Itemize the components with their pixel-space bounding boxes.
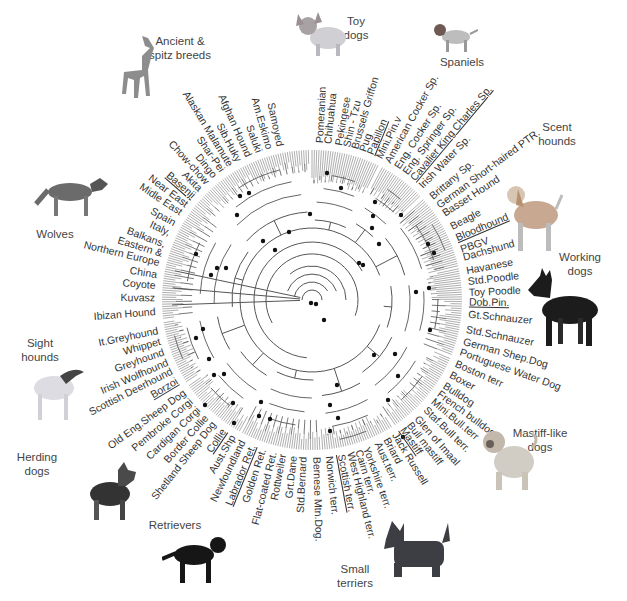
bootstrap-node-dot — [393, 352, 397, 356]
bootstrap-node-dot — [212, 373, 216, 377]
leaf-branch — [343, 435, 346, 446]
leaf-branch — [182, 367, 198, 376]
leaf-branch — [335, 438, 337, 448]
leaf-branch — [171, 249, 184, 254]
leaf-branch — [164, 321, 175, 323]
internal-branch — [376, 420, 378, 423]
leaf-branch — [344, 428, 348, 445]
group-label-line: Wolves — [10, 227, 100, 241]
leaf-branch — [316, 150, 317, 177]
leaf-branch — [163, 285, 182, 287]
internal-branch — [370, 422, 371, 423]
leaf-branch — [169, 341, 182, 345]
leaf-branch — [321, 429, 322, 450]
leaf-branch — [445, 314, 461, 316]
leaf-branch — [269, 426, 274, 444]
leaf-branch — [299, 433, 300, 449]
leaf-branch — [202, 395, 210, 403]
leaf-branch — [375, 170, 387, 190]
leaf-branch — [321, 150, 324, 182]
bootstrap-node-dot — [372, 353, 376, 357]
leaf-branch — [301, 150, 302, 171]
leaf-branch — [162, 295, 182, 296]
leaf-branch — [163, 281, 181, 283]
leaf-branch — [445, 306, 462, 307]
leaf-branch — [445, 323, 460, 325]
internal-branch — [261, 411, 266, 424]
sub-clade-arc — [435, 299, 438, 329]
bootstrap-node-dot — [222, 372, 226, 376]
internal-branch — [291, 419, 293, 434]
group-label-line: hounds — [512, 134, 602, 148]
leaf-branch — [379, 172, 391, 191]
leaf-branch — [241, 168, 246, 178]
internal-branch — [181, 283, 193, 285]
wolf-illustration — [34, 172, 112, 218]
leaf-branch — [332, 432, 334, 448]
bootstrap-node-dot — [235, 213, 239, 217]
scottish-terrier-illustration — [380, 519, 452, 581]
leaf-branch — [198, 387, 210, 397]
leaf-branch — [414, 395, 422, 402]
leaf-branch — [162, 306, 177, 307]
bootstrap-node-dot — [377, 242, 381, 246]
leaf-branch — [439, 328, 458, 332]
leaf-branch — [285, 433, 288, 447]
leaf-branch — [404, 399, 414, 410]
internal-branch — [417, 373, 420, 375]
leaf-branch — [426, 359, 445, 369]
internal-branch — [340, 430, 341, 433]
leaf-branch — [409, 393, 421, 404]
beagle-illustration — [502, 175, 566, 255]
retriever-illustration — [162, 533, 228, 585]
leaf-branch — [283, 153, 285, 164]
internal-branch — [231, 197, 233, 199]
leaf-branch — [318, 150, 320, 183]
bootstrap-node-dot — [322, 318, 326, 322]
leaf-branch — [289, 433, 291, 448]
bootstrap-node-dot — [427, 286, 431, 290]
internal-branch — [286, 418, 288, 428]
leaf-branch — [398, 396, 412, 411]
leaf-branch — [164, 278, 176, 280]
bootstrap-node-dot — [414, 290, 418, 294]
leaf-branch — [406, 396, 417, 407]
internal-branch — [216, 389, 220, 393]
internal-branch — [203, 218, 216, 228]
leaf-branch — [215, 185, 228, 201]
internal-branch — [388, 403, 390, 406]
leaf-branch — [314, 150, 315, 184]
bootstrap-node-dot — [336, 416, 340, 420]
internal-branch — [432, 311, 440, 312]
internal-branch — [223, 197, 228, 203]
leaf-branch — [451, 308, 462, 309]
sub-clade-arc — [401, 228, 422, 269]
bootstrap-node-dot — [287, 230, 291, 234]
leaf-branch — [324, 434, 325, 449]
leaf-branch — [200, 200, 213, 212]
internal-branch — [410, 383, 414, 386]
leaf-branch — [181, 227, 191, 232]
leaf-branch — [294, 151, 296, 166]
leaf-branch — [207, 395, 220, 408]
leaf-branch — [290, 152, 292, 168]
internal-branch — [188, 352, 195, 355]
internal-branch — [280, 171, 281, 176]
internal-branch — [333, 426, 334, 434]
papillon-illustration — [292, 10, 352, 60]
pharaoh-hound-illustration — [112, 34, 162, 104]
leaf-branch — [433, 276, 460, 280]
bootstrap-node-dot — [203, 403, 207, 407]
internal-branch — [331, 176, 332, 182]
leaf-branch — [212, 188, 226, 204]
bootstrap-node-dot — [201, 327, 205, 331]
leaf-branch — [165, 269, 175, 271]
internal-branch — [269, 176, 270, 179]
internal-branch — [424, 344, 437, 349]
leaf-branch — [432, 271, 459, 276]
leaf-branch — [208, 192, 223, 208]
bootstrap-node-dot — [386, 398, 390, 402]
internal-branch — [179, 313, 193, 314]
sub-clade-arc — [405, 285, 410, 331]
leaf-branch — [445, 318, 460, 320]
